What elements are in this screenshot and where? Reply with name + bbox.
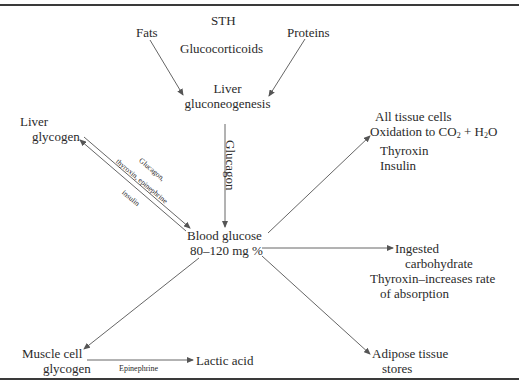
all-tissue-line1: All tissue cells xyxy=(370,109,497,124)
node-blood-glucose: Blood glucose 80–120 mg % xyxy=(187,228,263,258)
liver-glycogen-line2: glycogen xyxy=(20,129,80,144)
node-adipose-tissue: Adipose tissue stores xyxy=(372,346,448,376)
arrow-blood-to-adipose xyxy=(262,256,370,354)
node-sth: STH xyxy=(211,13,236,28)
ingested-line1: Ingested xyxy=(370,241,495,256)
node-glucocorticoids: Glucocorticoids xyxy=(180,41,263,56)
all-tissue-line3: Thyroxin xyxy=(370,143,497,158)
node-lactic-acid: Lactic acid xyxy=(196,353,253,368)
ingested-line4: of absorption xyxy=(370,286,495,301)
node-fats: Fats xyxy=(136,25,158,40)
ingested-line2: carbohydrate xyxy=(370,256,495,271)
node-all-tissue-cells: All tissue cells Oxidation to CO2 + H2O … xyxy=(370,109,497,173)
muscle-line1: Muscle cell xyxy=(22,346,91,361)
edge-label-glucagon: Glucagon xyxy=(222,140,238,191)
blood-glucose-line2: 80–120 mg % xyxy=(187,243,263,258)
node-liver-gluconeogenesis: Liver gluconeogenesis xyxy=(180,81,275,111)
arrow-blood-to-tissue xyxy=(268,136,370,233)
ingested-line3: Thyroxin–increases rate xyxy=(370,271,495,286)
adipose-line2: stores xyxy=(372,361,448,376)
all-tissue-line2: Oxidation to CO2 + H2O xyxy=(370,124,497,143)
muscle-line2: glycogen xyxy=(22,361,91,376)
arrow-fats-to-liver xyxy=(150,40,183,95)
adipose-line1: Adipose tissue xyxy=(372,346,448,361)
arrow-blood-to-glycogen xyxy=(80,140,186,231)
node-ingested-carbohydrate: Ingested carbohydrate Thyroxin–increases… xyxy=(370,241,495,301)
liver-gluconeogenesis-line1: Liver xyxy=(180,81,275,96)
liver-glycogen-line1: Liver xyxy=(20,114,80,129)
all-tissue-line4: Insulin xyxy=(370,158,497,173)
blood-glucose-line1: Blood glucose xyxy=(187,228,263,243)
edge-label-epinephrine: Epinephrine xyxy=(119,364,158,373)
arrow-blood-to-muscle xyxy=(84,258,199,349)
node-muscle-cell-glycogen: Muscle cell glycogen xyxy=(22,346,91,376)
liver-gluconeogenesis-line2: gluconeogenesis xyxy=(180,96,275,111)
node-proteins: Proteins xyxy=(287,25,330,40)
arrows-layer xyxy=(0,0,519,386)
node-liver-glycogen: Liver glycogen xyxy=(20,114,80,144)
